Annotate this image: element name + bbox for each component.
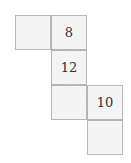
- fold-line: [87, 120, 123, 121]
- fold-line: [87, 85, 88, 120]
- face-1: [15, 15, 51, 50]
- fold-line: [51, 15, 52, 50]
- face-5: 10: [87, 85, 123, 120]
- face-2: 8: [51, 15, 87, 50]
- face-6: [87, 120, 123, 155]
- face-3: 12: [51, 50, 87, 85]
- fold-line: [51, 50, 87, 51]
- face-4: [51, 85, 87, 120]
- fold-line: [51, 85, 87, 86]
